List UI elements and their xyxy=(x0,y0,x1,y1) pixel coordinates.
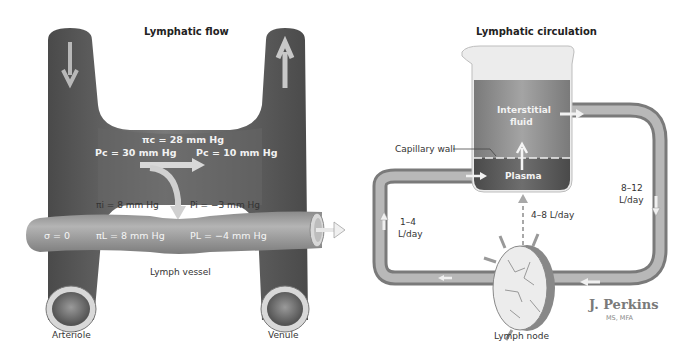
label-pi-i: πi = 8 mm Hg xyxy=(96,200,159,210)
label-capillary-wall: Capillary wall xyxy=(395,144,455,154)
label-flow-node: 4–8 L/day xyxy=(531,210,574,220)
label-sigma: σ = 0 xyxy=(44,230,70,241)
label-p-c-arterial: Pc = 30 mm Hg xyxy=(95,147,177,158)
label-interstitial-fluid-2: fluid xyxy=(510,117,533,127)
label-interstitial-fluid-1: Interstitial xyxy=(497,105,551,115)
label-p-i: Pi = −3 mm Hg xyxy=(190,200,260,210)
label-venule: Venule xyxy=(268,330,298,340)
label-lymph-node: Lymph node xyxy=(494,331,549,341)
label-flow-out-1: 8–12 xyxy=(621,183,643,193)
lymphatic-circulation-title: Lymphatic circulation xyxy=(476,26,597,37)
label-flow-return-1: 1–4 xyxy=(400,217,416,227)
diagram-graphics xyxy=(0,0,690,352)
artist-signature: J. Perkins xyxy=(589,297,658,312)
lymphatic-flow-title: Lymphatic flow xyxy=(144,26,229,37)
label-pi-c: πc = 28 mm Hg xyxy=(142,134,224,145)
label-p-l: PL = −4 mm Hg xyxy=(190,230,267,241)
label-arteriole: Arteriole xyxy=(52,330,91,340)
label-plasma: Plasma xyxy=(505,171,542,181)
label-pi-l: πL = 8 mm Hg xyxy=(96,230,165,241)
label-p-c-venous: Pc = 10 mm Hg xyxy=(196,147,278,158)
label-flow-return-2: L/day xyxy=(398,229,423,239)
label-flow-out-2: L/day xyxy=(619,195,644,205)
artist-credentials: MS, MFA xyxy=(606,314,633,322)
label-lymph-vessel: Lymph vessel xyxy=(150,267,211,277)
